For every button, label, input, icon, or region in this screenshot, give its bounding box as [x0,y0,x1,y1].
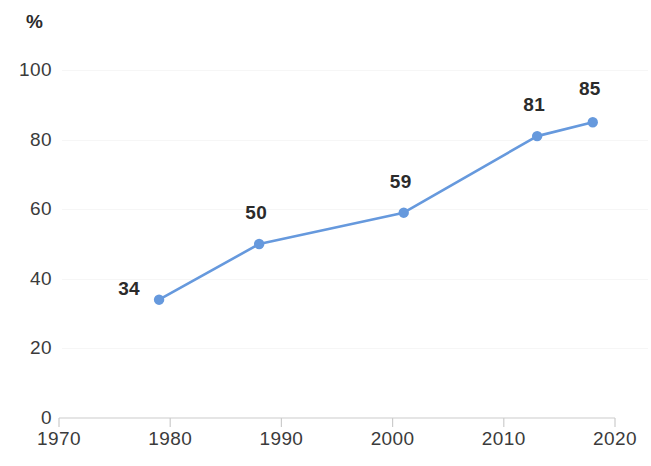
data-point-markers [154,117,598,305]
plot-area [0,0,651,466]
data-point-value-label: 85 [563,78,617,100]
data-point-marker [532,131,542,141]
data-point-marker [399,207,409,217]
data-point-value-label: 34 [102,278,156,300]
data-point-value-label: 50 [229,202,283,224]
series-line [159,122,593,299]
line-chart: % 020406080100 197019801990200020102020 … [0,0,651,466]
data-point-value-label: 81 [507,94,561,116]
data-point-marker [588,117,598,127]
x-axis [59,418,615,427]
data-point-value-label: 59 [374,171,428,193]
data-point-marker [254,239,264,249]
